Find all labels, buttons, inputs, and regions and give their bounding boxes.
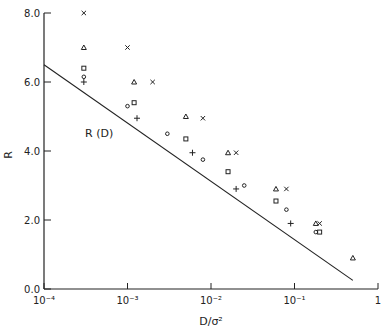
cross-marker — [125, 45, 129, 49]
y-tick-label: 6.0 — [24, 77, 40, 88]
circle-marker — [242, 184, 246, 188]
square-marker — [82, 66, 86, 70]
plus-marker — [233, 186, 239, 192]
y-axis-title: R — [2, 151, 15, 159]
plus-marker — [81, 79, 87, 85]
square-marker — [184, 137, 188, 141]
square-marker — [318, 230, 322, 234]
y-tick-label: 0.0 — [24, 284, 40, 295]
chart: 10⁻⁴10⁻³10⁻²10⁻¹10.02.04.06.08.0D/σ²R R … — [0, 0, 386, 335]
plus-marker — [189, 150, 195, 156]
cross-marker — [82, 11, 86, 15]
triangle-marker — [273, 186, 278, 191]
y-tick-label: 2.0 — [24, 215, 40, 226]
curve-label: R (D) — [85, 127, 113, 140]
x-axis-title: D/σ² — [199, 315, 223, 328]
cross-marker — [201, 116, 205, 120]
square-marker — [132, 101, 136, 105]
circle-marker — [285, 208, 289, 212]
circle-marker — [126, 104, 130, 108]
triangle-marker — [183, 114, 188, 119]
y-tick-label: 8.0 — [24, 8, 40, 19]
x-tick-label: 1 — [375, 295, 381, 306]
square-marker — [274, 199, 278, 203]
plus-marker — [288, 220, 294, 226]
x-tick-label: 10⁻³ — [116, 295, 138, 306]
triangle-marker — [132, 80, 137, 85]
plus-marker — [134, 115, 140, 121]
cross-marker — [284, 187, 288, 191]
circle-marker — [166, 132, 170, 136]
x-tick-label: 10⁻¹ — [283, 295, 305, 306]
x-tick-label: 10⁻⁴ — [33, 295, 55, 306]
circle-marker — [201, 158, 205, 162]
square-marker — [226, 170, 230, 174]
cross-marker — [234, 151, 238, 155]
triangle-marker — [350, 255, 355, 260]
triangle-marker — [81, 45, 86, 50]
plot-area: R (D) — [44, 11, 355, 281]
circle-marker — [82, 75, 86, 79]
triangle-marker — [226, 150, 231, 155]
circle-marker — [314, 230, 318, 234]
x-tick-label: 10⁻² — [200, 295, 222, 306]
y-tick-label: 4.0 — [24, 146, 40, 157]
rd-curve — [44, 65, 353, 281]
cross-marker — [150, 80, 154, 84]
